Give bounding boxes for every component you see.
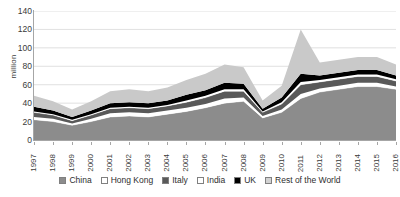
x-tick-mark	[244, 142, 245, 145]
x-tick-label: 2004	[163, 154, 171, 172]
legend-label: China	[69, 176, 91, 185]
x-tick-label: 2001	[106, 154, 114, 172]
x-tick-label: 2015	[373, 154, 381, 172]
legend-item[interactable]: UK	[234, 176, 256, 185]
legend-label: India	[207, 176, 225, 185]
x-tick-mark	[358, 142, 359, 145]
x-tick-label: 2013	[335, 154, 343, 172]
x-tick-mark	[396, 142, 397, 145]
stacked-area-chart: million 140120100806040200 1997199819992…	[0, 0, 400, 197]
legend-item[interactable]: Italy	[162, 176, 188, 185]
y-tick-label: 20	[4, 118, 32, 127]
x-tick-mark	[110, 142, 111, 145]
y-tick-label: 120	[4, 25, 32, 34]
x-tick-label: 2014	[354, 154, 362, 172]
x-tick-mark	[339, 142, 340, 145]
x-tick-mark	[225, 142, 226, 145]
x-tick-label: 2008	[240, 154, 248, 172]
y-tick-label: 40	[4, 99, 32, 108]
y-tick-label: 60	[4, 81, 32, 90]
x-tick-mark	[377, 142, 378, 145]
x-tick-mark	[34, 142, 35, 145]
x-tick-label: 2002	[125, 154, 133, 172]
plot-svg	[34, 11, 396, 140]
legend-label: UK	[244, 176, 256, 185]
legend-item[interactable]: Rest of the World	[265, 176, 341, 185]
x-tick-label: 2003	[144, 154, 152, 172]
x-tick-mark	[148, 142, 149, 145]
x-tick-mark	[53, 142, 54, 145]
x-tick-mark	[263, 142, 264, 145]
x-tick-label: 2012	[316, 154, 324, 172]
x-tick-mark	[186, 142, 187, 145]
y-axis-ticks: 140120100806040200	[2, 0, 32, 150]
chart-legend: ChinaHong KongItalyIndiaUKRest of the Wo…	[0, 176, 400, 185]
x-tick-mark	[301, 142, 302, 145]
x-tick-mark	[91, 142, 92, 145]
x-tick-label: 2016	[392, 154, 400, 172]
legend-label: Italy	[172, 176, 188, 185]
x-tick-mark	[72, 142, 73, 145]
x-tick-label: 2006	[201, 154, 209, 172]
plot-area	[34, 11, 396, 140]
legend-swatch-icon	[234, 177, 241, 184]
x-tick-label: 2010	[278, 154, 286, 172]
x-tick-label: 1998	[49, 154, 57, 172]
legend-swatch-icon	[265, 177, 272, 184]
x-tick-label: 1999	[68, 154, 76, 172]
y-tick-label: 140	[4, 7, 32, 16]
legend-item[interactable]: Hong Kong	[101, 176, 154, 185]
x-tick-label: 2005	[182, 154, 190, 172]
legend-label: Hong Kong	[111, 176, 154, 185]
x-tick-mark	[167, 142, 168, 145]
x-tick-label: 2011	[297, 155, 305, 172]
x-tick-mark	[282, 142, 283, 145]
legend-label: Rest of the World	[275, 176, 341, 185]
legend-item[interactable]: India	[197, 176, 225, 185]
x-tick-mark	[205, 142, 206, 145]
legend-swatch-icon	[162, 177, 169, 184]
x-tick-label: 1997	[30, 154, 38, 172]
x-tick-mark	[320, 142, 321, 145]
x-tick-label: 2000	[87, 154, 95, 172]
x-axis-line	[33, 140, 396, 141]
y-tick-label: 0	[4, 136, 32, 145]
x-tick-label: 2009	[259, 154, 267, 172]
legend-swatch-icon	[101, 177, 108, 184]
legend-swatch-icon	[59, 177, 66, 184]
x-tick-label: 2007	[221, 154, 229, 172]
x-tick-mark	[129, 142, 130, 145]
y-tick-label: 100	[4, 44, 32, 53]
y-tick-label: 80	[4, 62, 32, 71]
x-axis-ticks: 1997199819992000200120022003200420052006…	[34, 142, 396, 172]
legend-swatch-icon	[197, 177, 204, 184]
legend-item[interactable]: China	[59, 176, 91, 185]
